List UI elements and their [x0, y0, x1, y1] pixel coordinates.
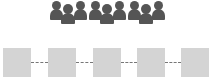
people-group-1 [50, 0, 88, 24]
node-3 [93, 48, 121, 77]
dotted-connector [165, 62, 181, 63]
dotted-connector [31, 62, 48, 63]
node-5 [181, 48, 209, 77]
people-group-2 [89, 0, 127, 24]
node-1 [3, 48, 31, 77]
dotted-connector [121, 62, 137, 63]
node-4 [137, 48, 165, 77]
dotted-connector [76, 62, 93, 63]
node-2 [48, 48, 76, 77]
people-group-3 [128, 0, 166, 24]
